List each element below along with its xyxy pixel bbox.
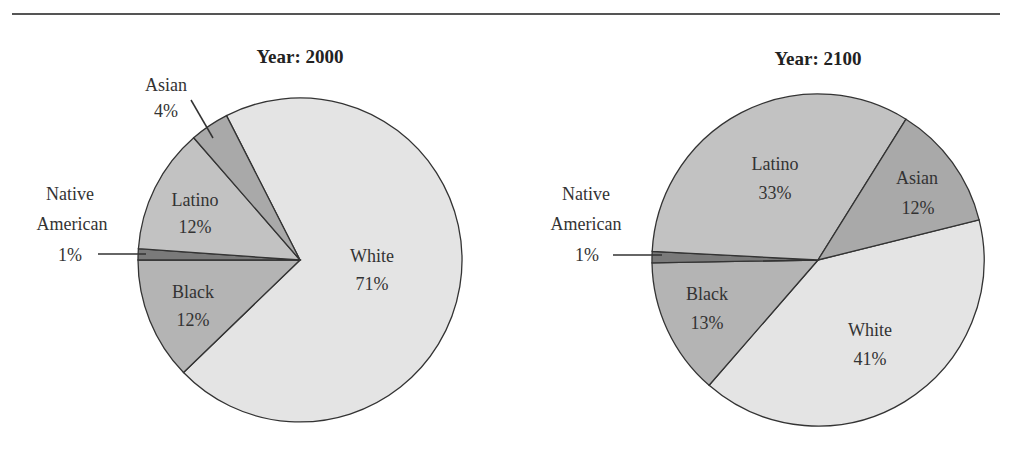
- pie-charts: Asian 4% Latino 12% Native American 1% B…: [0, 0, 1010, 462]
- value-white-2100: 41%: [854, 349, 887, 369]
- value-white-2000: 71%: [356, 274, 389, 294]
- value-latino-2100: 33%: [759, 183, 792, 203]
- label-black-2100: Black: [686, 284, 728, 304]
- label-white-2000: White: [350, 246, 394, 266]
- label-black-2000: Black: [172, 282, 214, 302]
- value-asian-2100: 12%: [902, 198, 935, 218]
- pie-2100: [652, 94, 984, 426]
- value-asian-2000: 4%: [154, 101, 178, 121]
- label-native-2000: Native: [46, 184, 94, 204]
- pie-2000: [138, 98, 462, 422]
- label-white-2100: White: [848, 320, 892, 340]
- label-latino-2100: Latino: [752, 154, 799, 174]
- value-native-american-2100: 1%: [575, 245, 599, 265]
- label-american-2000: American: [37, 214, 108, 234]
- value-black-2000: 12%: [177, 310, 210, 330]
- label-american-2100: American: [551, 214, 622, 234]
- value-latino-2000: 12%: [179, 217, 212, 237]
- value-native-american-2000: 1%: [58, 245, 82, 265]
- label-asian-2100: Asian: [896, 168, 938, 188]
- value-black-2100: 13%: [691, 313, 724, 333]
- label-latino-2000: Latino: [172, 190, 219, 210]
- label-native-2100: Native: [562, 184, 610, 204]
- label-asian-2000: Asian: [145, 75, 187, 95]
